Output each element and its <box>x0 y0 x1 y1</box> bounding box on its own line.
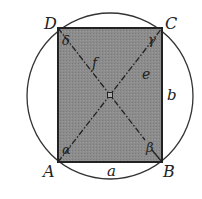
vertex-label-a: A <box>41 162 55 181</box>
angle-label-alpha: α <box>62 142 71 157</box>
side-label-b: b <box>167 86 177 104</box>
angle-label-delta: δ <box>62 33 70 48</box>
vertex-label-b: B <box>162 162 175 181</box>
angle-label-gamma: γ <box>148 32 156 47</box>
diagonal-label-e: e <box>142 66 150 82</box>
vertex-label-d: D <box>43 14 57 33</box>
angle-label-beta: β <box>145 140 154 155</box>
vertex-label-c: C <box>165 14 177 33</box>
rectangle-circumcircle-diagram: D C A B a b f e δ γ α β <box>0 0 202 199</box>
side-label-a: a <box>107 162 116 180</box>
center-point <box>108 93 113 98</box>
